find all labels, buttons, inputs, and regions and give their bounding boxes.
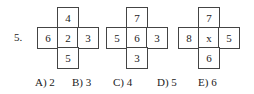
option-a[interactable]: A) 2	[35, 76, 55, 88]
cell-right: 3	[146, 27, 168, 49]
cell-right: 3	[77, 27, 99, 49]
cell-top: 4	[57, 7, 79, 29]
cell-right: 5	[218, 27, 240, 49]
cell-center: x	[198, 27, 220, 49]
option-b[interactable]: B) 3	[72, 76, 91, 88]
option-c[interactable]: C) 4	[113, 76, 132, 88]
cell-bottom: 3	[126, 47, 148, 69]
question-number: 5.	[14, 31, 22, 43]
option-d[interactable]: D) 5	[157, 76, 177, 88]
cell-left: 5	[106, 27, 128, 49]
cell-left: 8	[178, 27, 200, 49]
cell-left: 6	[37, 27, 59, 49]
figure-1: 4 6 2 3 5	[37, 7, 99, 69]
cell-bottom: 5	[57, 47, 79, 69]
cell-center: 6	[126, 27, 148, 49]
option-e[interactable]: E) 6	[198, 76, 217, 88]
cell-top: 7	[198, 7, 220, 29]
cell-top: 7	[126, 7, 148, 29]
figure-3: 7 8 x 5 6	[178, 7, 240, 69]
cell-bottom: 6	[198, 47, 220, 69]
cell-center: 2	[57, 27, 79, 49]
figure-2: 7 5 6 3 3	[106, 7, 168, 69]
